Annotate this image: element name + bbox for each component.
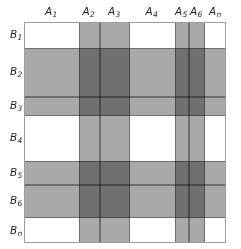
column-header-subscript: 4 (153, 10, 158, 19)
column-header-subscript: 1 (53, 10, 58, 19)
row-header-subscript: 5 (18, 171, 23, 180)
row-header-bn: Bn (0, 217, 22, 243)
row-header-base: B (10, 131, 17, 143)
row-band-b6 (25, 185, 225, 218)
row-header-subscript: 1 (18, 33, 23, 42)
column-header-a1: A1 (24, 4, 78, 18)
column-header-a6: A6 (188, 4, 204, 18)
column-header-subscript: 3 (116, 10, 121, 19)
row-header-base: B (10, 28, 17, 40)
column-header-subscript: 5 (183, 10, 188, 19)
column-header-a4: A4 (129, 4, 174, 18)
row-header-subscript: n (18, 229, 23, 238)
column-header-an: An (204, 4, 226, 18)
cross-classification-diagram: A1A2A3A4A5A6An B1B2B3B4B5B6Bn (0, 0, 241, 249)
column-header-a3: A3 (99, 4, 129, 18)
row-header-b4: B4 (0, 115, 22, 160)
row-header-base: B (10, 99, 17, 111)
row-header-b6: B6 (0, 184, 22, 217)
column-header-subscript: n (217, 10, 222, 19)
row-band-b5 (25, 161, 225, 185)
row-header-base: B (10, 65, 17, 77)
row-band-b2 (25, 48, 225, 97)
column-header-base: A (190, 5, 197, 17)
column-header-base: A (209, 5, 216, 17)
row-header-b3: B3 (0, 96, 22, 115)
column-header-subscript: 2 (90, 10, 95, 19)
column-header-a5: A5 (174, 4, 188, 18)
row-header-subscript: 6 (18, 199, 23, 208)
row-band-b3 (25, 97, 225, 116)
column-header-base: A (45, 5, 52, 17)
matrix-plot-area (24, 22, 226, 243)
row-header-subscript: 4 (18, 136, 23, 145)
column-header-a2: A2 (78, 4, 99, 18)
row-header-subscript: 2 (18, 70, 23, 79)
row-header-base: B (10, 224, 17, 236)
row-header-b2: B2 (0, 47, 22, 96)
row-header-subscript: 3 (18, 104, 23, 113)
column-header-base: A (83, 5, 90, 17)
column-header-subscript: 6 (198, 10, 203, 19)
column-header-base: A (146, 5, 153, 17)
row-header-b5: B5 (0, 160, 22, 184)
row-header-base: B (10, 194, 17, 206)
row-header-base: B (10, 166, 17, 178)
column-header-base: A (108, 5, 115, 17)
column-header-base: A (175, 5, 182, 17)
row-header-b1: B1 (0, 22, 22, 47)
